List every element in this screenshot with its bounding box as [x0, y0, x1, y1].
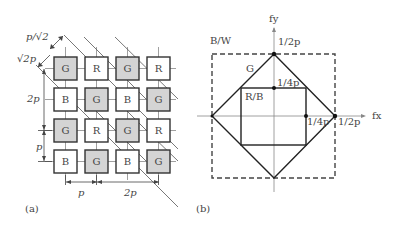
pixel-label: R	[93, 125, 101, 136]
tick-label-fx-quarter: 1/4p	[307, 116, 330, 127]
label-2p-horizontal: 2p	[123, 187, 137, 198]
region-label-bw: B/W	[210, 35, 232, 46]
label-p-horizontal: p	[78, 187, 85, 198]
pixel-label: G	[155, 156, 163, 167]
pixel-array	[54, 57, 170, 173]
label-2p-vertical: 2p	[26, 93, 40, 104]
tick-label-fy-half: 1/2p	[278, 36, 301, 47]
panel-b: fy fx B/W G R/B 1/2p 1/4p 1/4p 1/2p (b)	[196, 13, 382, 214]
caption-a: (a)	[25, 203, 39, 214]
fy-arrow-icon	[272, 27, 276, 32]
tick-label-fx-half: 1/2p	[338, 116, 361, 127]
region-label-g: G	[246, 63, 254, 74]
pixel-label: G	[124, 125, 132, 136]
panel-a: G R G R B G B G G R G R B G B G	[17, 31, 178, 214]
pixel-label: R	[155, 125, 163, 136]
pixel-label: G	[62, 125, 70, 136]
axis-label-fx: fx	[372, 110, 382, 121]
pixel-label: B	[62, 94, 69, 105]
pixel-label: R	[93, 63, 101, 74]
pixel-label: B	[62, 156, 69, 167]
panel-b-labels: fy fx B/W G R/B 1/2p 1/4p 1/4p 1/2p	[210, 13, 382, 127]
label-p-over-sqrt2: p/√2	[26, 31, 49, 42]
pixel-label: G	[62, 63, 70, 74]
label-p-vertical: p	[36, 141, 43, 152]
pixel-label: G	[124, 63, 132, 74]
axes	[197, 28, 364, 192]
fx-arrow-icon	[361, 114, 366, 118]
pixel-label: B	[124, 94, 131, 105]
caption-b: (b)	[196, 203, 210, 214]
pixel-label: G	[93, 94, 101, 105]
pixel-label: B	[124, 156, 131, 167]
pixel-label: G	[93, 156, 101, 167]
figure: G R G R B G B G G R G R B G B G	[0, 0, 400, 226]
region-label-rb: R/B	[245, 91, 263, 102]
label-sqrt2-p: √2p	[17, 53, 37, 64]
tick-label-fy-quarter: 1/4p	[277, 77, 300, 88]
pixel-label: R	[155, 63, 163, 74]
axis-label-fy: fy	[269, 13, 279, 24]
pixel-label: G	[155, 94, 163, 105]
